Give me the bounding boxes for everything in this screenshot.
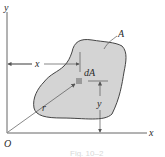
radius-label: r bbox=[42, 102, 46, 113]
element-label: dA bbox=[84, 67, 96, 78]
x-dim-label: x bbox=[34, 58, 40, 69]
element-da bbox=[76, 78, 82, 84]
origin-label: O bbox=[4, 138, 11, 149]
figure-caption: Fig. 10–2 bbox=[70, 149, 104, 157]
region-label: A bbox=[117, 28, 125, 39]
y-dim-label: y bbox=[96, 98, 102, 109]
x-axis-label: x bbox=[148, 127, 154, 138]
y-axis-label: y bbox=[3, 2, 9, 13]
area-moment-diagram: y x O A dA x y r Fig. 10–2 bbox=[0, 0, 165, 157]
